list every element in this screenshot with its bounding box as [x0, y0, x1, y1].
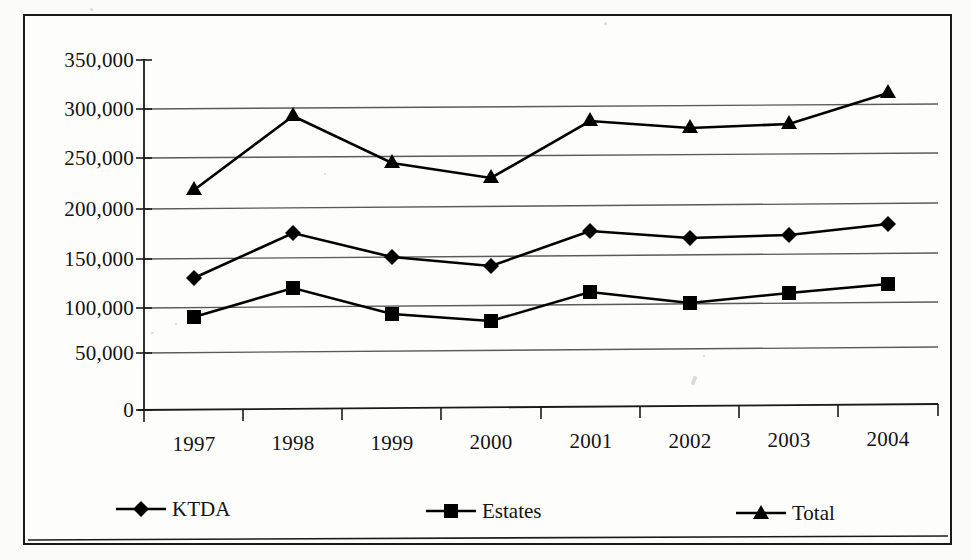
- scan-speck: [324, 173, 326, 175]
- scan-speck: [151, 332, 154, 334]
- diamond-marker: [880, 216, 896, 232]
- square-marker: [583, 285, 597, 299]
- ytick-label: 100,000: [34, 296, 134, 321]
- legend-marker-total: [736, 505, 786, 519]
- ytick-label: 300,000: [34, 97, 134, 122]
- diamond-marker: [781, 227, 797, 243]
- series-total-markers: [186, 84, 896, 195]
- diamond-marker: [483, 258, 499, 274]
- triangle-marker: [285, 107, 301, 121]
- square-marker: [286, 281, 300, 295]
- square-marker: [385, 307, 399, 321]
- series-ktda-markers: [186, 216, 896, 286]
- scan-speck: [703, 355, 705, 357]
- legend-underline: [28, 536, 948, 540]
- line-chart: [0, 0, 971, 560]
- xtick-label: 2000: [451, 430, 531, 455]
- triangle-marker: [186, 181, 202, 195]
- square-marker: [683, 296, 697, 310]
- ytick-label: 350,000: [34, 48, 134, 73]
- diamond-marker: [133, 501, 149, 517]
- diamond-marker: [384, 249, 400, 265]
- square-marker: [187, 310, 201, 324]
- triangle-marker: [682, 119, 698, 133]
- xtick-label: 1998: [253, 431, 333, 456]
- scan-speck: [604, 22, 607, 25]
- legend-marker-ktda: [116, 501, 166, 517]
- xtick-label: 2002: [650, 429, 730, 454]
- gridline-300000: [144, 104, 938, 109]
- square-marker: [881, 277, 895, 291]
- ytick-label: 0: [34, 398, 134, 423]
- square-marker: [782, 286, 796, 300]
- gridline-50000: [144, 347, 938, 353]
- diamond-marker: [285, 225, 301, 241]
- x-axis-line: [138, 404, 938, 410]
- triangle-marker: [880, 84, 896, 98]
- legend-item-ktda: KTDA: [172, 497, 230, 522]
- gridlines: [144, 104, 938, 353]
- legend-item-total: Total: [792, 501, 835, 526]
- xtick-label: 2004: [848, 427, 928, 452]
- xtick-label: 1997: [154, 432, 234, 457]
- square-marker: [484, 314, 498, 328]
- scan-speck: [175, 323, 177, 325]
- series-total: [186, 84, 896, 195]
- ytick-label: 200,000: [34, 197, 134, 222]
- diamond-marker: [682, 230, 698, 246]
- ytick-label: 50,000: [34, 341, 134, 366]
- legend-marker-estates: [426, 504, 476, 518]
- gridline-150000: [144, 253, 938, 259]
- xtick-label: 2001: [551, 429, 631, 454]
- xtick-label: 2003: [749, 428, 829, 453]
- legend-item-estates: Estates: [482, 499, 541, 524]
- gridline-250000: [144, 153, 938, 158]
- scan-speck: [90, 8, 93, 11]
- triangle-marker: [582, 112, 598, 126]
- series-ktda: [186, 216, 896, 286]
- xtick-label: 1999: [352, 431, 432, 456]
- axis-lines: [138, 59, 938, 410]
- diamond-marker: [582, 223, 598, 239]
- square-marker: [444, 504, 458, 518]
- gridline-200000: [144, 203, 938, 209]
- ytick-label: 150,000: [34, 247, 134, 272]
- diamond-marker: [186, 270, 202, 286]
- scan-speck: [565, 300, 567, 302]
- ytick-label: 250,000: [34, 146, 134, 171]
